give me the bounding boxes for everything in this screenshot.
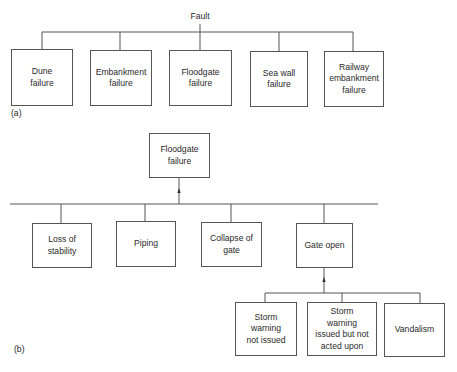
node-sea-wall-failure: Sea wall failure xyxy=(250,51,308,107)
node-loss-of-stability: Loss of stability xyxy=(32,223,92,268)
node-label: Collapse of gate xyxy=(210,233,253,256)
node-dune-failure: Dune failure xyxy=(11,49,73,106)
node-floodgate-failure: Floodgate failure xyxy=(169,50,232,106)
caption-b: (b) xyxy=(14,344,25,354)
node-label: Gate open xyxy=(304,240,344,252)
node-embankment-failure: Embankment failure xyxy=(90,50,152,106)
arrow-up-icon xyxy=(322,277,325,282)
node-label: Piping xyxy=(134,238,158,250)
node-gate-open: Gate open xyxy=(296,223,353,268)
node-label: Storm warning issued but not acted upon xyxy=(315,306,369,352)
node-floodgate-failure-root: Floodgate failure xyxy=(149,133,210,178)
node-label: Dune failure xyxy=(30,66,53,89)
node-label: Sea wall failure xyxy=(263,68,295,91)
node-collapse-of-gate: Collapse of gate xyxy=(201,222,262,267)
node-label: Embankment failure xyxy=(96,67,147,90)
node-label: Floodgate failure xyxy=(160,144,198,167)
arrow-up-icon xyxy=(177,188,180,193)
node-label: Storm warning not issued xyxy=(246,312,285,347)
caption-a: (a) xyxy=(11,108,22,118)
node-label: Loss of stability xyxy=(48,234,77,257)
node-label: Floodgate failure xyxy=(181,67,219,90)
node-piping: Piping xyxy=(116,221,176,267)
node-railway-embankment-failure: Railway embankment failure xyxy=(324,51,384,107)
node-storm-warning-not-issued: Storm warning not issued xyxy=(235,302,297,356)
node-label: Vandalism xyxy=(395,324,435,336)
fault-tree-diagram: Fault Dune failure Embankment failure Fl… xyxy=(0,0,457,372)
node-storm-warning-not-acted-upon: Storm warning issued but not acted upon xyxy=(307,302,377,356)
node-vandalism: Vandalism xyxy=(384,303,445,357)
fault-root-label: Fault xyxy=(186,11,214,21)
node-label: Railway embankment failure xyxy=(329,62,379,97)
